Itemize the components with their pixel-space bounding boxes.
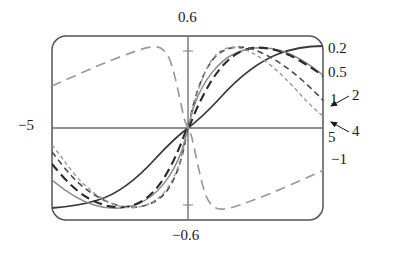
plot-canvas: [0, 0, 393, 256]
axis-label-right: 5: [328, 130, 336, 145]
axis-label-left: −5: [18, 118, 34, 133]
curve-label-0-5: 0.5: [328, 65, 347, 80]
curve-label-0-2: 0.2: [328, 41, 347, 56]
axis-label-neg-one: −1: [331, 152, 347, 167]
axis-label-top: 0.6: [178, 10, 197, 25]
curve-label-2: 2: [352, 88, 360, 103]
curve-label-4: 4: [352, 124, 360, 139]
chart-figure: 0.6 −0.6 −5 5 −1 0.2 0.5 1 2 4: [0, 0, 393, 256]
curve-label-1: 1: [330, 92, 338, 107]
axis-label-bottom: −0.6: [172, 228, 199, 243]
